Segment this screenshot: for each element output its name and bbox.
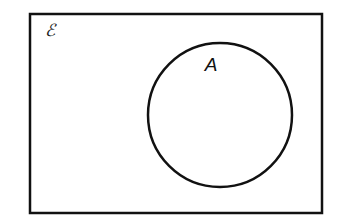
venn-diagram-svg: ℰ A xyxy=(0,0,337,223)
set-a-label: A xyxy=(204,54,218,75)
venn-diagram-figure: ℰ A xyxy=(0,0,337,223)
universal-set-rectangle xyxy=(30,14,322,213)
